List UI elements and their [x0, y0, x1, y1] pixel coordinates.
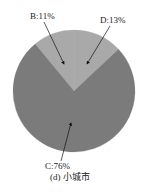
pie-slices [13, 30, 135, 152]
pie-chart [0, 0, 144, 196]
label-d: D:13% [100, 16, 126, 25]
chart-caption: (d) 小城市 [50, 173, 90, 182]
label-c: C:76% [45, 162, 70, 171]
label-b: B:11% [30, 12, 55, 21]
